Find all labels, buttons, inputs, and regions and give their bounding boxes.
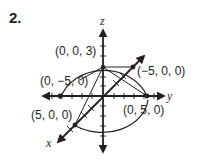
label-5-0-0: (5, 0, 0) [31,108,72,122]
label-neg5-0-0: (−5, 0, 0) [137,64,185,78]
point-0-5-0 [145,94,150,99]
point-5-0-0 [73,123,78,128]
point-0-neg5-0 [58,94,63,99]
z-axis-label: z [99,14,105,28]
label-0-5-0: (0, 5, 0) [123,103,164,117]
y-axis-label: y [166,89,173,103]
x-axis [58,56,144,142]
point-0-0-3 [101,65,105,69]
x-axis-label: x [45,136,52,150]
point-neg5-0-0 [131,65,136,70]
coordinate-diagram: z y x (0, 0, 3) (0, −5, 0) (−5, 0, 0) (5… [0,0,197,164]
label-0-0-3: (0, 0, 3) [55,44,96,58]
label-0-neg5-0: (0, −5, 0) [40,74,88,88]
